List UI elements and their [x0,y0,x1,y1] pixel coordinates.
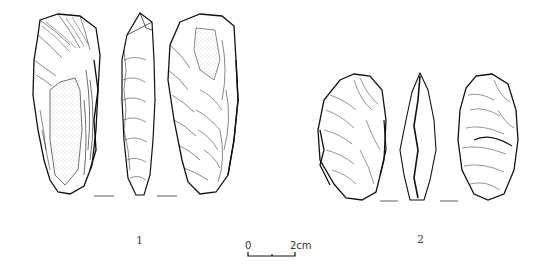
artifact-1-dorsal-view [33,14,100,194]
artifact-2-dorsal-view [318,74,386,200]
artifact-1-ventral-view [168,14,238,194]
artifact-1-label: 1 [136,234,143,247]
illustration-drawing [0,0,548,270]
artifact-1-profile-view [122,13,155,195]
scale-bar [248,252,295,256]
artifact-2-ventral-view [458,74,518,200]
scale-end-label: 2cm [290,240,312,251]
scale-start-label: 0 [245,240,251,251]
artifact-2-profile-view [400,73,436,200]
artifact-2-label: 2 [417,233,424,246]
lithic-illustration-plate: 1 2 0 2cm [0,0,548,270]
